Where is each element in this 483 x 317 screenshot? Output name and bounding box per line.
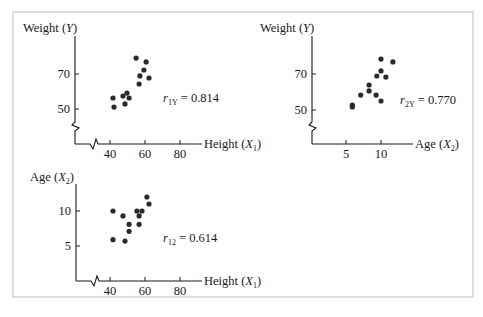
- data-point: [139, 208, 144, 213]
- scatter-plot-age_vs_weight: 5105070Weight (Y)Age (X2)r2Y = 0.770: [260, 21, 459, 161]
- data-point: [137, 73, 142, 78]
- y-tick-label: 50: [295, 103, 308, 117]
- x-axis-label: Height (X1): [204, 137, 261, 153]
- data-point: [134, 208, 139, 213]
- y-tick-label: 50: [58, 102, 71, 116]
- data-point: [378, 98, 383, 103]
- data-point: [110, 237, 115, 242]
- y-axis-with-break: [309, 36, 316, 144]
- data-point: [141, 67, 146, 72]
- y-tick-label: 10: [59, 204, 72, 218]
- figure-canvas: 4060805070Weight (Y)Height (X1)r1Y = 0.8…: [0, 0, 483, 317]
- data-point: [390, 59, 395, 64]
- data-point: [146, 201, 151, 206]
- data-point: [358, 93, 363, 98]
- data-point: [120, 93, 125, 98]
- data-point: [111, 105, 116, 110]
- data-point: [127, 95, 132, 100]
- data-point: [122, 239, 127, 244]
- x-tick-label: 60: [139, 284, 152, 298]
- y-tick-label: 70: [58, 67, 71, 81]
- data-point: [127, 229, 132, 234]
- y-axis-label: Weight (Y): [23, 21, 77, 35]
- data-point: [367, 88, 372, 93]
- x-axis-label: Height (X1): [204, 274, 261, 290]
- data-point: [120, 213, 125, 218]
- data-point: [127, 222, 132, 227]
- x-axis-label: Age (X2): [415, 137, 459, 153]
- figure-frame: [13, 12, 473, 297]
- y-tick-label: 70: [295, 67, 308, 81]
- y-axis-label: Weight (Y): [260, 21, 314, 35]
- data-point: [137, 222, 142, 227]
- data-point: [122, 101, 127, 106]
- data-point: [137, 213, 142, 218]
- correlation-annotation: r12 = 0.614: [163, 231, 218, 247]
- y-axis-label: Age (X2): [30, 170, 74, 186]
- data-point: [110, 208, 115, 213]
- x-tick-label: 5: [343, 147, 349, 161]
- data-point: [374, 93, 379, 98]
- x-tick-label: 80: [174, 147, 187, 161]
- y-axis-with-break: [72, 36, 79, 144]
- scatter-plots: 4060805070Weight (Y)Height (X1)r1Y = 0.8…: [23, 21, 459, 298]
- x-tick-label: 80: [174, 284, 187, 298]
- data-point: [110, 95, 115, 100]
- data-point: [144, 194, 149, 199]
- scatter-plot-height_vs_age: 406080510Age (X2)Height (X1)r12 = 0.614: [30, 170, 261, 298]
- x-tick-label: 40: [104, 284, 117, 298]
- data-point: [350, 104, 355, 109]
- x-tick-label: 40: [104, 147, 117, 161]
- correlation-annotation: r2Y = 0.770: [400, 93, 456, 109]
- data-point: [378, 68, 383, 73]
- data-point: [144, 59, 149, 64]
- data-point: [134, 56, 139, 61]
- data-point: [383, 75, 388, 80]
- correlation-annotation: r1Y = 0.814: [163, 91, 220, 107]
- data-point: [146, 75, 151, 80]
- x-tick-label: 10: [375, 147, 388, 161]
- data-point: [374, 73, 379, 78]
- scatter-plot-height_vs_weight: 4060805070Weight (Y)Height (X1)r1Y = 0.8…: [23, 21, 261, 161]
- data-point: [367, 82, 372, 87]
- data-point: [378, 57, 383, 62]
- y-tick-label: 5: [65, 239, 71, 253]
- data-point: [137, 81, 142, 86]
- x-tick-label: 60: [139, 147, 152, 161]
